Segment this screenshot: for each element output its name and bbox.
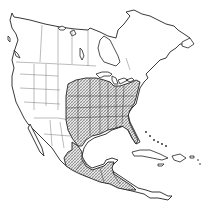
range-map-svg [0, 0, 206, 211]
jamaica [158, 164, 164, 166]
puerto-rico [190, 156, 194, 158]
haida-gwaii [8, 36, 10, 42]
range-map [0, 0, 206, 211]
bahamas [145, 131, 201, 165]
hispaniola [172, 154, 186, 162]
cuba [132, 150, 168, 160]
range-eastern-us [66, 78, 140, 146]
